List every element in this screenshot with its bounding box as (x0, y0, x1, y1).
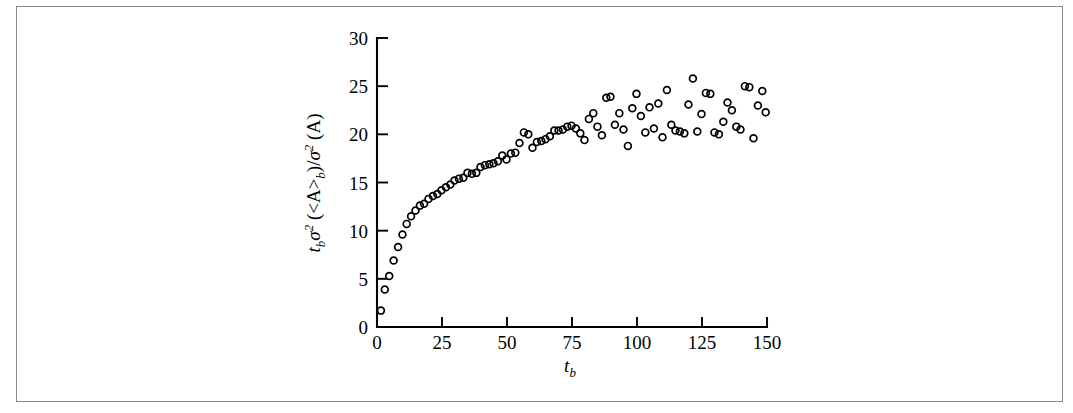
data-point-marker (395, 244, 402, 251)
y-tick-label: 10 (349, 221, 368, 242)
y-tick-label: 25 (349, 76, 368, 97)
ylabel-mid: (<A> (303, 179, 325, 225)
data-point-marker (512, 149, 519, 156)
data-point-marker (646, 104, 653, 111)
data-point-marker (724, 99, 731, 106)
data-point-marker (381, 286, 388, 293)
chart-svg: 051015202530 0255075100125150 tb tbσ2 (<… (0, 0, 1073, 413)
data-point-marker (750, 135, 757, 142)
data-point-marker (659, 134, 666, 141)
data-point-marker (386, 273, 393, 280)
data-point-marker (378, 307, 385, 314)
y-tick-label: 0 (359, 317, 369, 338)
xlabel-sub: b (569, 365, 576, 380)
data-point-marker (664, 87, 671, 94)
data-point-marker (612, 121, 619, 128)
data-point-marker (720, 118, 727, 125)
data-point-marker (651, 125, 658, 132)
x-tick-label: 150 (753, 332, 782, 353)
svg-text:tb: tb (564, 355, 576, 380)
x-axis-ticks: 0255075100125150 (372, 317, 781, 353)
ylabel-end: (A) (303, 113, 325, 144)
data-point-marker (390, 257, 397, 264)
axis-spine (377, 38, 767, 327)
data-point-marker (694, 128, 701, 135)
data-point-marker (516, 140, 523, 147)
data-point-marker (655, 100, 662, 107)
data-point-marker (577, 130, 584, 137)
data-point-marker (755, 102, 762, 109)
data-point-marker (690, 75, 697, 82)
data-point-marker (625, 142, 632, 149)
data-point-marker (638, 113, 645, 120)
data-point-marker (599, 132, 606, 139)
y-tick-label: 5 (359, 269, 369, 290)
data-point-marker (399, 231, 406, 238)
ylabel-slash: )/ (303, 160, 325, 172)
data-point-marker (594, 123, 601, 130)
data-point-marker (616, 110, 623, 117)
data-point-marker (729, 107, 736, 114)
data-point-marker (590, 110, 597, 117)
x-tick-label: 75 (563, 332, 582, 353)
data-point-marker (629, 105, 636, 112)
y-tick-label: 30 (349, 28, 368, 49)
x-tick-label: 50 (498, 332, 517, 353)
x-axis-title: tb (564, 355, 576, 380)
data-point-marker (685, 101, 692, 108)
x-tick-label: 0 (372, 332, 382, 353)
data-point-marker (642, 129, 649, 136)
data-point-marker (762, 109, 769, 116)
axes: 051015202530 0255075100125150 (349, 28, 781, 353)
svg-text:tbσ2 (<A>b)/σ2 (A): tbσ2 (<A>b)/σ2 (A) (301, 113, 328, 252)
y-tick-label: 15 (349, 173, 368, 194)
data-point-marker (759, 88, 766, 95)
data-point-marker (620, 126, 627, 133)
data-point-marker (581, 137, 588, 144)
y-axis-title: tbσ2 (<A>b)/σ2 (A) (301, 113, 328, 252)
data-point-marker (403, 221, 410, 228)
scatter-plot: 051015202530 0255075100125150 tb tbσ2 (<… (0, 0, 1073, 413)
data-point-marker (698, 111, 705, 118)
x-tick-label: 100 (623, 332, 652, 353)
x-tick-label: 125 (688, 332, 717, 353)
data-point-marker (607, 93, 614, 100)
x-tick-label: 25 (433, 332, 452, 353)
data-point-marker (746, 84, 753, 91)
data-points (378, 75, 770, 314)
y-tick-label: 20 (349, 124, 368, 145)
data-point-marker (707, 90, 714, 97)
data-point-marker (633, 90, 640, 97)
